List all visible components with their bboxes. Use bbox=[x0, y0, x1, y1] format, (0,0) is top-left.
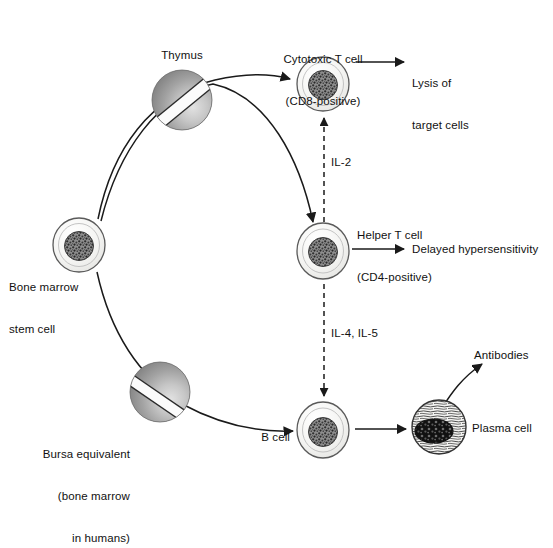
bursa-label-line3: in humans) bbox=[20, 531, 130, 545]
bursa-label-line1: Bursa equivalent bbox=[20, 447, 130, 461]
lysis-output-label: Lysis of target cells bbox=[412, 48, 532, 160]
thymus-organ bbox=[146, 62, 231, 136]
helper-t-cell-label: Helper T cell (CD4-positive) bbox=[357, 200, 477, 312]
stem-cell-label-line2: stem cell bbox=[9, 322, 109, 336]
plasma-cell-label: Plasma cell bbox=[472, 421, 552, 435]
thymus-label: Thymus bbox=[140, 48, 224, 62]
il2-label: IL-2 bbox=[331, 155, 391, 169]
plasma-cell bbox=[412, 400, 466, 454]
b-cell-label: B cell bbox=[236, 430, 290, 444]
helper-t-cell-label-line1: Helper T cell bbox=[357, 228, 477, 242]
lysis-label-line1: Lysis of bbox=[412, 76, 532, 90]
cytotoxic-t-cell-label: Cytotoxic T cell (CD8-positive) bbox=[253, 24, 393, 136]
edge-stem-to-bcell bbox=[97, 272, 293, 431]
bone-marrow-stem-cell-label: Bone marrow stem cell bbox=[9, 252, 109, 364]
bursa-label: Bursa equivalent (bone marrow in humans) bbox=[20, 419, 130, 548]
helper-t-cell-label-line2: (CD4-positive) bbox=[357, 270, 477, 284]
stem-cell-label-line1: Bone marrow bbox=[9, 280, 109, 294]
delayed-hypersensitivity-label: Delayed hypersensitivity bbox=[412, 242, 553, 256]
cytotoxic-t-cell-label-line1: Cytotoxic T cell bbox=[253, 52, 393, 66]
bursa-label-line2: (bone marrow bbox=[20, 489, 130, 503]
b-cell bbox=[297, 402, 349, 458]
antibodies-label: Antibodies bbox=[474, 348, 553, 362]
bursa-organ bbox=[120, 362, 196, 427]
lysis-label-line2: target cells bbox=[412, 118, 532, 132]
il45-label: IL-4, IL-5 bbox=[331, 326, 411, 340]
cytotoxic-t-cell-label-line2: (CD8-positive) bbox=[253, 94, 393, 108]
helper-t-cell bbox=[297, 223, 349, 279]
